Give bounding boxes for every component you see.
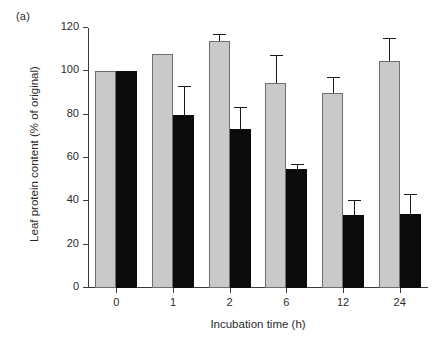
error-bar-grey-2h bbox=[219, 35, 220, 42]
bar-black-6h bbox=[286, 169, 307, 288]
x-tick bbox=[286, 288, 287, 293]
panel-label: (a) bbox=[16, 10, 30, 22]
bar-grey-24h bbox=[379, 61, 400, 289]
bar-black-12h bbox=[343, 215, 364, 288]
error-cap-grey-24h bbox=[383, 38, 396, 39]
x-tick-label: 6 bbox=[283, 296, 289, 308]
x-axis-title: Incubation time (h) bbox=[88, 318, 428, 330]
y-tick-label: 0 bbox=[73, 280, 79, 292]
error-bar-black-2h bbox=[240, 108, 241, 129]
plot-area: 020406080100120 01261224 bbox=[88, 28, 428, 288]
x-tick bbox=[400, 288, 401, 293]
x-tick bbox=[173, 288, 174, 293]
bar-grey-1h bbox=[152, 54, 173, 288]
error-bar-grey-24h bbox=[389, 39, 390, 61]
error-cap-black-6h bbox=[291, 164, 304, 165]
error-cap-black-1h bbox=[178, 86, 191, 87]
x-tick bbox=[116, 288, 117, 293]
x-tick-label: 24 bbox=[394, 296, 406, 308]
error-bar-black-1h bbox=[184, 87, 185, 115]
error-cap-black-24h bbox=[404, 194, 417, 195]
bar-black-2h bbox=[230, 129, 251, 288]
x-tick-label: 2 bbox=[227, 296, 233, 308]
error-cap-black-2h bbox=[234, 107, 247, 108]
y-tick: 100 bbox=[83, 70, 88, 71]
error-cap-grey-2h bbox=[213, 34, 226, 35]
x-tick bbox=[230, 288, 231, 293]
error-cap-grey-12h bbox=[327, 77, 340, 78]
bar-black-1h bbox=[173, 115, 194, 288]
error-bar-black-6h bbox=[297, 165, 298, 169]
y-tick: 0 bbox=[83, 287, 88, 288]
x-tick-label: 0 bbox=[113, 296, 119, 308]
figure-panel-a: (a) 020406080100120 01261224 Incubation … bbox=[0, 0, 443, 347]
error-bar-black-24h bbox=[410, 195, 411, 215]
y-tick-label: 60 bbox=[67, 150, 79, 162]
y-axis-line bbox=[88, 28, 89, 288]
y-tick: 20 bbox=[83, 244, 88, 245]
y-axis-title: Leaf protein content (% of original) bbox=[28, 34, 40, 274]
bar-grey-2h bbox=[209, 41, 230, 288]
y-tick-label: 80 bbox=[67, 107, 79, 119]
x-tick bbox=[343, 288, 344, 293]
y-tick: 120 bbox=[83, 27, 88, 28]
x-tick-label: 12 bbox=[337, 296, 349, 308]
error-bar-black-12h bbox=[354, 201, 355, 215]
error-bar-grey-12h bbox=[333, 78, 334, 93]
x-tick-label: 1 bbox=[170, 296, 176, 308]
error-cap-black-12h bbox=[348, 200, 361, 201]
bar-grey-12h bbox=[322, 93, 343, 288]
y-tick-label: 40 bbox=[67, 193, 79, 205]
y-tick: 80 bbox=[83, 114, 88, 115]
y-tick-label: 120 bbox=[61, 20, 79, 32]
x-axis-line bbox=[88, 287, 428, 288]
bar-black-24h bbox=[400, 214, 421, 288]
bar-grey-6h bbox=[265, 83, 286, 288]
bar-grey-0h bbox=[95, 71, 116, 288]
error-bar-grey-6h bbox=[276, 56, 277, 83]
bar-black-0h bbox=[116, 71, 137, 288]
y-tick: 40 bbox=[83, 200, 88, 201]
error-cap-grey-6h bbox=[270, 55, 283, 56]
y-tick-label: 20 bbox=[67, 237, 79, 249]
y-tick-label: 100 bbox=[61, 63, 79, 75]
y-tick: 60 bbox=[83, 157, 88, 158]
